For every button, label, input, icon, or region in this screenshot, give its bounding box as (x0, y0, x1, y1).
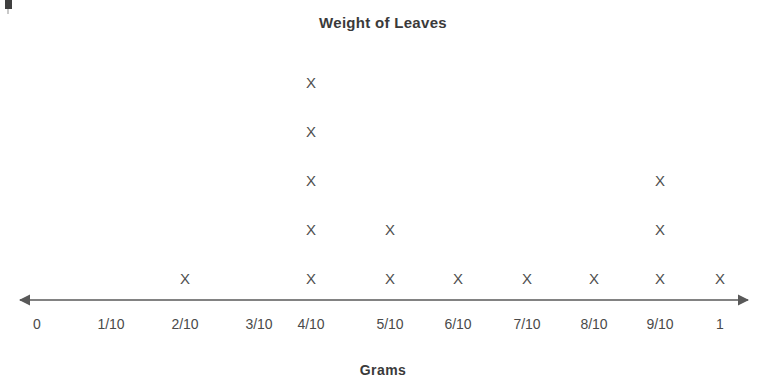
data-marker-x: X (301, 222, 321, 238)
x-axis-tick-label: 1 (690, 316, 750, 332)
x-axis-tick-label: 9/10 (630, 316, 690, 332)
data-marker-x: X (650, 271, 670, 287)
x-axis-tick-label: 7/10 (497, 316, 557, 332)
x-axis-title: Grams (0, 362, 766, 378)
data-marker-x: X (448, 271, 468, 287)
data-marker-x: X (650, 222, 670, 238)
data-marker-x: X (380, 271, 400, 287)
x-axis-tick-label: 6/10 (428, 316, 488, 332)
data-marker-x: X (584, 271, 604, 287)
chart-canvas: Weight of Leaves XXXXXXXXXXXXXXX 01/102/… (0, 0, 766, 389)
data-marker-x: X (380, 222, 400, 238)
x-axis-tick-label: 4/10 (281, 316, 341, 332)
data-marker-x: X (517, 271, 537, 287)
plot-area: XXXXXXXXXXXXXXX 01/102/103/104/105/106/1… (0, 0, 766, 389)
data-marker-x: X (301, 271, 321, 287)
data-marker-x: X (710, 271, 730, 287)
data-marker-x: X (175, 271, 195, 287)
data-marker-x: X (301, 173, 321, 189)
x-axis-tick-label: 0 (7, 316, 67, 332)
data-marker-x: X (301, 75, 321, 91)
x-axis-tick-label: 3/10 (229, 316, 289, 332)
data-marker-x: X (650, 173, 670, 189)
x-axis-tick-label: 5/10 (360, 316, 420, 332)
x-axis-line (0, 288, 766, 312)
x-axis-tick-label: 2/10 (155, 316, 215, 332)
x-axis-tick-label: 1/10 (81, 316, 141, 332)
x-axis-tick-label: 8/10 (564, 316, 624, 332)
data-marker-x: X (301, 124, 321, 140)
